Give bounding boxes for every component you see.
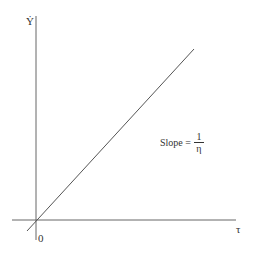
diagram-canvas — [0, 0, 256, 254]
slope-annotation: Slope = 1 η — [160, 131, 204, 154]
fraction-numerator: 1 — [196, 131, 201, 142]
x-axis-label: τ — [236, 224, 240, 235]
fraction-denominator: η — [196, 143, 201, 154]
y-axis-label: Ẏ — [26, 16, 34, 27]
slope-text: Slope = — [160, 137, 191, 148]
slope-fraction: 1 η — [194, 131, 204, 154]
origin-label: 0 — [38, 233, 44, 244]
